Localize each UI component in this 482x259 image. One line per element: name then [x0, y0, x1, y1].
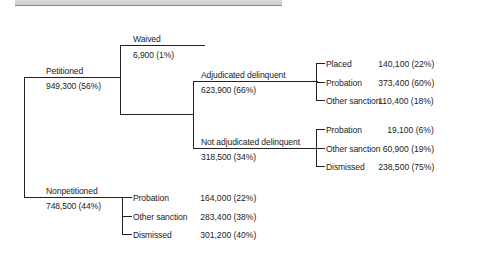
- petitioned-value: 949,300 (56%): [46, 80, 101, 91]
- np-other-tick: [122, 216, 132, 217]
- np-dismissed-value: 301,200 (40%): [200, 229, 256, 240]
- np-dismissed-tick: [122, 234, 132, 235]
- nadj-probation-label: Probation: [326, 124, 362, 135]
- np-other-value: 283,400 (38%): [200, 211, 256, 222]
- petitioned-split-line: [120, 45, 121, 115]
- adj-probation-value: 373,400 (60%): [378, 77, 434, 88]
- adjudicated-branch-line: [193, 81, 318, 82]
- adjudicated-label: Adjudicated delinquent: [201, 69, 286, 80]
- adjudication-connector-line: [120, 114, 194, 115]
- not-adjudicated-label: Not adjudicated delinquent: [201, 136, 300, 147]
- np-dismissed-label: Dismissed: [133, 229, 172, 240]
- waived-branch-line: [120, 45, 205, 46]
- placed-value: 140,100 (22%): [378, 58, 434, 69]
- root-trunk-line: [24, 77, 25, 198]
- nonpetitioned-value: 748,500 (44%): [46, 200, 101, 211]
- np-other-label: Other sanction: [133, 211, 187, 222]
- adjudication-split-line: [193, 81, 194, 149]
- waived-value: 6,900 (1%): [133, 49, 174, 60]
- adj-other-value: 110,400 (18%): [379, 95, 434, 106]
- nonpetitioned-label: Nonpetitioned: [46, 185, 98, 196]
- waived-label: Waived: [133, 33, 161, 44]
- adjudicated-value: 623,900 (66%): [201, 84, 256, 95]
- nadj-other-value: 60,900 (19%): [383, 143, 434, 154]
- not-adjudicated-branch-line: [193, 148, 318, 149]
- np-probation-label: Probation: [133, 192, 169, 203]
- petitioned-label: Petitioned: [46, 65, 83, 76]
- nadj-probation-value: 19,100 (6%): [387, 124, 434, 135]
- nadj-probation-tick: [316, 129, 325, 130]
- placed-tick: [316, 63, 325, 64]
- nadj-dismissed-label: Dismissed: [326, 161, 365, 172]
- np-probation-value: 164,000 (22%): [200, 192, 256, 203]
- not-adjudicated-value: 318,500 (34%): [201, 151, 256, 162]
- nadj-dismissed-value: 238,500 (75%): [378, 161, 434, 172]
- nadj-other-label: Other sanction: [326, 143, 380, 154]
- nadj-other-tick: [316, 148, 325, 149]
- petitioned-branch-line: [24, 77, 121, 78]
- adj-other-label: Other sanction: [326, 95, 380, 106]
- adj-probation-label: Probation: [326, 77, 362, 88]
- np-probation-tick: [122, 197, 132, 198]
- placed-label: Placed: [326, 58, 352, 69]
- adj-other-tick: [316, 100, 325, 101]
- top-banner-bar: [15, 0, 282, 6]
- adj-probation-tick: [316, 82, 325, 83]
- nadj-dismissed-tick: [316, 166, 325, 167]
- nonpetitioned-branch-line: [24, 197, 123, 198]
